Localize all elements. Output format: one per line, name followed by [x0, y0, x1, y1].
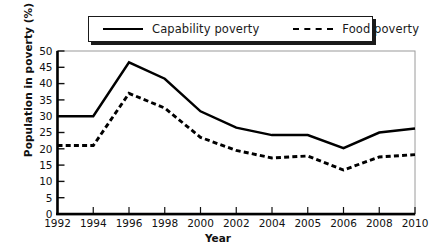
x-tick-label: 1992	[44, 217, 71, 229]
y-tick-label: 50	[39, 45, 52, 57]
x-tick-label: 1996	[116, 217, 143, 229]
x-tick-label: 1998	[151, 217, 178, 229]
solid-line-swatch-icon	[103, 28, 143, 30]
legend-item-food-poverty: Food poverty	[293, 17, 419, 41]
plot-frame	[57, 51, 415, 215]
y-tick-label: 45	[39, 61, 52, 73]
legend-label-food-poverty: Food poverty	[342, 22, 419, 36]
dashed-line-swatch-icon	[293, 28, 333, 30]
x-tick-label: 2006	[330, 217, 357, 229]
x-tick-label: 2010	[402, 217, 429, 229]
poverty-line-chart: Capability poverty Food poverty Populati…	[0, 0, 436, 251]
y-tick-label: 20	[39, 143, 52, 155]
legend-label-capability-poverty: Capability poverty	[152, 22, 259, 36]
x-tick-label: 2008	[366, 217, 393, 229]
x-tick-label: 2004	[259, 217, 286, 229]
chart-legend: Capability poverty Food poverty	[88, 16, 373, 42]
x-tick-label: 2002	[223, 217, 250, 229]
legend-item-capability-poverty: Capability poverty	[103, 17, 259, 41]
x-tick-label: 2005	[294, 217, 321, 229]
y-tick-label: 15	[39, 159, 52, 171]
y-tick-label: 30	[39, 110, 52, 122]
y-tick-label: 10	[39, 175, 52, 187]
plot-border	[57, 51, 415, 215]
y-tick-label: 25	[39, 126, 52, 138]
y-tick-label: 35	[39, 94, 52, 106]
x-tick-label: 2000	[187, 217, 214, 229]
x-tick-label: 1994	[80, 217, 107, 229]
y-tick-label: 40	[39, 77, 52, 89]
y-tick-label: 5	[46, 192, 53, 204]
